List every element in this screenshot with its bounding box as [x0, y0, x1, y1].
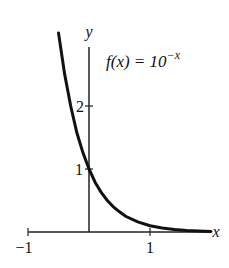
- function-label-exponent: −x: [167, 48, 181, 62]
- x-axis-label: x: [211, 223, 219, 240]
- y-tick-label-2: 2: [76, 98, 84, 115]
- y-axis-label: y: [83, 23, 93, 41]
- function-label: f(x) = 10−x: [106, 48, 181, 71]
- y-tick-label-1: 1: [75, 161, 83, 178]
- x-tick-label-neg1: −1: [15, 239, 32, 256]
- function-label-base: f(x) = 10: [106, 52, 167, 71]
- x-tick-label-1: 1: [146, 239, 154, 256]
- function-plot: −1 1 1 2 x y f(x) = 10−x: [0, 0, 229, 268]
